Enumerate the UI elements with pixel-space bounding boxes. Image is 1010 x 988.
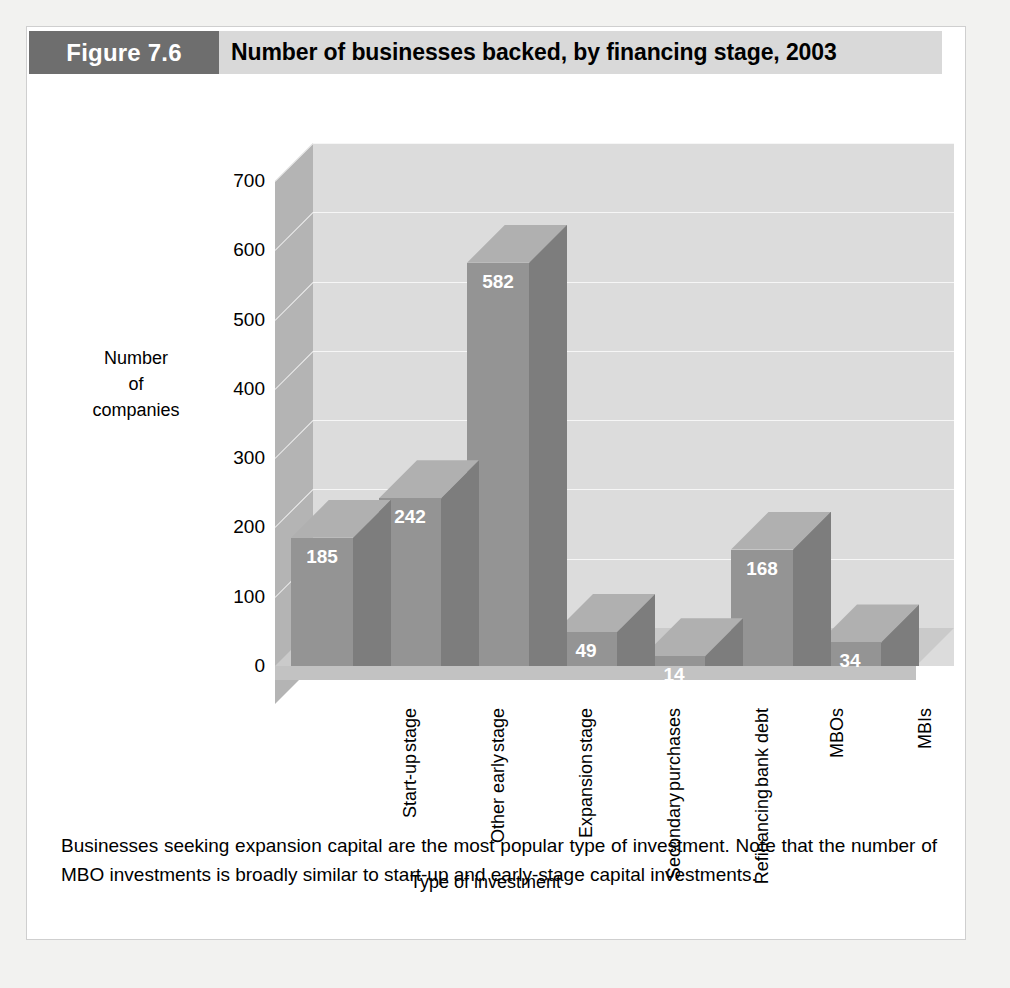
bar-front-face: [291, 538, 353, 666]
x-axis-tick-label-line: MBOs: [828, 708, 847, 758]
figure-page: Figure 7.6 Number of businesses backed, …: [0, 0, 1010, 988]
x-axis-tick-label-line: Other early: [489, 754, 508, 843]
x-axis-tick-label-line: Expansion: [577, 754, 596, 838]
figure-header: Figure 7.6 Number of businesses backed, …: [29, 31, 942, 74]
bar-series: 341681449582242185: [29, 92, 942, 704]
figure-caption: Businesses seeking expansion capital are…: [61, 832, 937, 890]
figure-number-badge: Figure 7.6: [29, 31, 219, 74]
x-axis-tick-label-line: purchases: [665, 708, 684, 791]
bar-value-label: 14: [643, 664, 705, 686]
figure-title: Number of businesses backed, by financin…: [231, 31, 837, 74]
bar-side-face: [529, 225, 567, 666]
x-axis-tick-label-line: stage: [577, 708, 596, 752]
bar[interactable]: 185: [291, 500, 353, 666]
x-axis-tick-label-line: stage: [489, 708, 508, 752]
x-axis-tick-label-line: MBIs: [916, 708, 935, 749]
x-axis-tick-label-line: Start-up: [401, 754, 420, 818]
bar-chart: 7006005004003002001000 Numberofcompanies…: [29, 92, 942, 812]
x-axis-tick-label-line: stage: [401, 708, 420, 752]
